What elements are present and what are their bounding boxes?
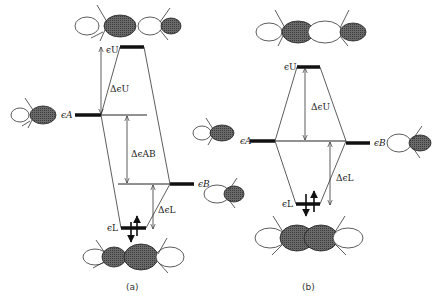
label-delta-l-a: ΔϵL — [158, 205, 176, 215]
antibonding-orbital-b — [256, 10, 366, 46]
caption-b: (b) — [302, 282, 315, 292]
label-delta-ab-a: ΔϵAB — [131, 149, 156, 159]
label-delta-l-b: ΔϵL — [336, 173, 354, 183]
atomic-orbital-a-right — [193, 118, 234, 145]
label-delta-u-a: ΔϵU — [110, 84, 130, 94]
label-eps-l-a: ϵL — [107, 223, 118, 233]
panel-a: ϵU ϵA ϵB ϵL — [11, 5, 244, 292]
label-eps-u-b: ϵU — [284, 62, 297, 72]
caption-a: (a) — [126, 282, 139, 292]
bonding-orbital-b — [255, 216, 363, 255]
orbital-energy-diagram: ϵU ϵA ϵB ϵL — [0, 0, 440, 300]
atomic-orbital-b-right — [387, 126, 431, 158]
atomic-orbital-a-left — [11, 98, 56, 128]
label-eps-b-b: ϵB — [374, 138, 386, 148]
label-eps-a-a: ϵA — [61, 110, 73, 120]
bonding-orbital-a — [83, 238, 184, 273]
label-delta-u-b: ΔϵU — [311, 102, 331, 112]
panel-b: ϵU ϵA ϵB ϵL ΔϵU — [193, 10, 431, 292]
atomic-orbital-b-left — [204, 178, 244, 208]
label-eps-u-a: ϵU — [106, 45, 119, 55]
label-eps-l-b: ϵL — [282, 199, 293, 209]
antibonding-orbital-a — [75, 5, 181, 41]
